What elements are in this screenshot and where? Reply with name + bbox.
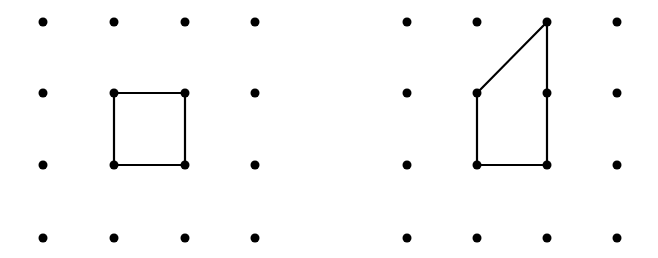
grid-dot [251, 161, 260, 170]
grid-dot [403, 89, 412, 98]
grid-dot [181, 161, 190, 170]
trapezoid-shape [477, 22, 547, 165]
grid-dot [473, 18, 482, 27]
grid-dot [403, 161, 412, 170]
geoboard-diagram [0, 0, 658, 258]
grid-dot [251, 89, 260, 98]
grid-dot [403, 234, 412, 243]
grid-dot [39, 234, 48, 243]
grid-dot [613, 18, 622, 27]
grid-dot [110, 89, 119, 98]
grid-dot [473, 89, 482, 98]
grid-dot [39, 161, 48, 170]
grid-dot [251, 18, 260, 27]
grid-dot [39, 18, 48, 27]
grid-dot [473, 161, 482, 170]
grid-dot [403, 18, 412, 27]
grid-dot [110, 18, 119, 27]
grid-dot [473, 234, 482, 243]
grid-dot [181, 89, 190, 98]
grid-dot [251, 234, 260, 243]
grid-dot [543, 234, 552, 243]
grid-dot [110, 234, 119, 243]
grid-dot [543, 161, 552, 170]
grid-dot [613, 161, 622, 170]
grid-dot [543, 89, 552, 98]
square-shape [114, 93, 185, 165]
grid-dot [181, 234, 190, 243]
left-dot-grid [39, 18, 260, 243]
grid-dot [543, 18, 552, 27]
grid-dot [613, 89, 622, 98]
grid-dot [110, 161, 119, 170]
grid-dot [181, 18, 190, 27]
grid-dot [613, 234, 622, 243]
grid-dot [39, 89, 48, 98]
right-dot-grid [403, 18, 622, 243]
